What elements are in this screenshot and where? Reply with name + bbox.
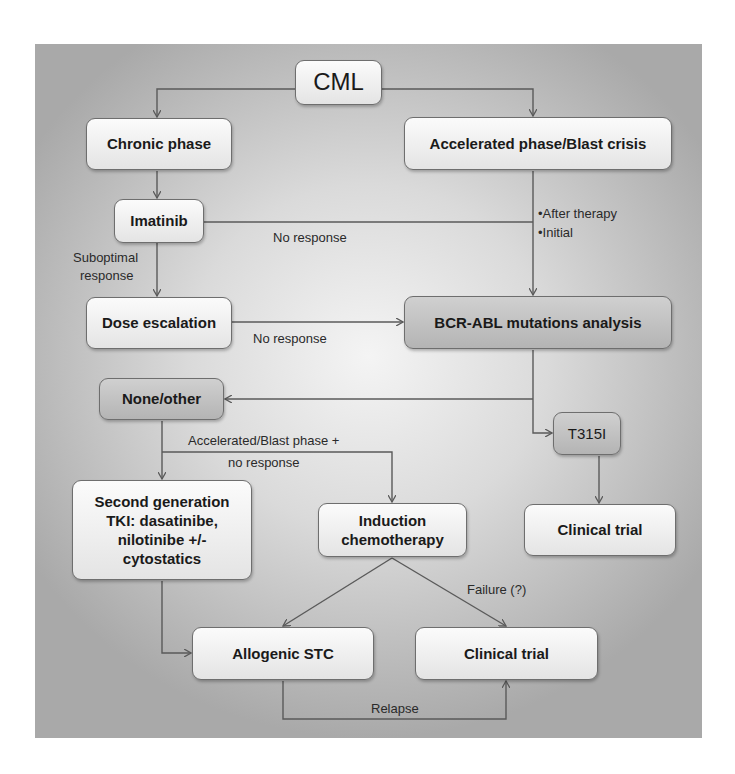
imatinib-no-response-label: No response: [273, 229, 347, 247]
dose-escalation-node: Dose escalation: [86, 297, 232, 349]
second-gen-line-3: nilotinibe +/-: [118, 530, 207, 549]
second-gen-line-4: cytostatics: [123, 549, 201, 568]
allogenic-stc-node: Allogenic STC: [192, 627, 374, 680]
accelerated-blast-response-label-1: Accelerated/Blast phase +: [188, 432, 339, 450]
suboptimal-response-label-1: Suboptimal: [73, 249, 138, 267]
after-therapy-label: •After therapy: [538, 205, 617, 223]
none-other-node: None/other: [99, 378, 224, 420]
clinical-trial-bottom-node: Clinical trial: [415, 627, 598, 680]
cml-node: CML: [295, 60, 382, 105]
second-gen-line-1: Second generation: [94, 492, 229, 511]
t315i-node: T315I: [553, 412, 621, 455]
bcr-abl-analysis-node: BCR-ABL mutations analysis: [404, 296, 672, 349]
induction-line-2: chemotherapy: [341, 530, 444, 549]
dose-no-response-label: No response: [253, 330, 327, 348]
second-gen-line-2: TKI: dasatinibe,: [106, 511, 218, 530]
initial-label: •Initial: [538, 224, 573, 242]
chronic-phase-node: Chronic phase: [86, 118, 232, 170]
imatinib-node: Imatinib: [114, 199, 204, 243]
relapse-label: Relapse: [371, 700, 419, 718]
accelerated-blast-node: Accelerated phase/Blast crisis: [404, 117, 672, 170]
failure-label: Failure (?): [467, 581, 526, 599]
second-gen-tki-node: Second generation TKI: dasatinibe, nilot…: [72, 480, 252, 580]
clinical-trial-right-node: Clinical trial: [524, 504, 676, 556]
induction-chemotherapy-node: Induction chemotherapy: [318, 503, 467, 557]
accelerated-blast-response-label-2: no response: [228, 454, 300, 472]
suboptimal-response-label-2: response: [80, 267, 133, 285]
induction-line-1: Induction: [359, 511, 427, 530]
